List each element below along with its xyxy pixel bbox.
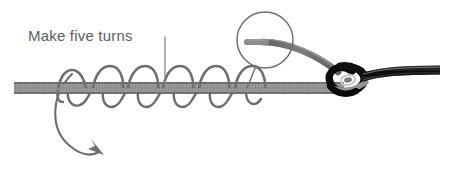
instruction-label: Make five turns xyxy=(28,28,133,45)
knot-loop xyxy=(329,66,366,94)
knot-illustration xyxy=(0,0,452,172)
standing-line xyxy=(14,82,344,94)
doubled-line xyxy=(362,67,440,80)
tag-end-tip xyxy=(247,40,266,42)
knot-diagram-figure: Make five turns xyxy=(0,0,452,172)
